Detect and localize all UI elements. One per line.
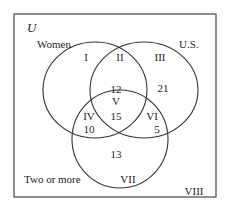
set-label-us: U.S.: [179, 38, 199, 50]
region-label-V: V: [112, 95, 120, 107]
region-label-I: I: [84, 51, 88, 63]
venn-diagram: U Women U.S. Two or more I II III 21 12 …: [0, 0, 227, 210]
universe-label: U: [27, 20, 38, 35]
region-value-V-upper: 12: [111, 83, 122, 95]
region-value-V: 15: [111, 110, 123, 122]
us-circle: [90, 42, 198, 138]
region-label-II: II: [116, 51, 124, 63]
region-label-IV: IV: [83, 110, 95, 122]
set-label-two-or-more: Two or more: [24, 173, 81, 185]
region-label-III: III: [155, 51, 166, 63]
region-label-VII: VII: [120, 173, 136, 185]
region-label-VI: VI: [146, 110, 158, 122]
set-label-women: Women: [37, 38, 71, 50]
region-value-VI: 5: [154, 123, 160, 135]
region-value-IV: 10: [84, 123, 96, 135]
women-circle: [43, 42, 147, 138]
region-label-VIII: VIII: [185, 185, 204, 197]
region-value-VII: 13: [111, 148, 123, 160]
region-value-III: 21: [158, 82, 169, 94]
